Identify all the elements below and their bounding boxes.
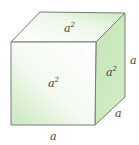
bottom-edge-label: a (50, 130, 57, 143)
right-edge-label: a (130, 54, 137, 67)
cube-diagram: a2 a2 a2 a a a (0, 0, 139, 145)
depth-edge-label: a (115, 107, 122, 120)
